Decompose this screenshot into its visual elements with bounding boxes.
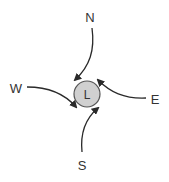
north-label: N bbox=[85, 10, 94, 25]
north-arrow bbox=[75, 28, 93, 80]
west-label: W bbox=[10, 81, 23, 96]
south-arrow bbox=[82, 108, 98, 152]
low-pressure-center: L bbox=[74, 81, 100, 107]
east-arrow bbox=[98, 80, 146, 98]
south-label: S bbox=[78, 158, 87, 173]
center-label: L bbox=[84, 88, 91, 102]
east-label: E bbox=[151, 92, 160, 107]
wind-convergence-diagram: L N W E S bbox=[0, 0, 169, 182]
west-arrow bbox=[27, 87, 76, 107]
